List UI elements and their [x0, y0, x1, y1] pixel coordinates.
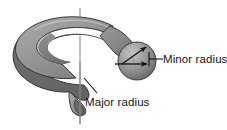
minor-radius-sphere	[118, 42, 156, 80]
minor-radius-label: Minor radius	[163, 53, 227, 65]
torus-diagram-figure: Minor radius Major radius	[0, 0, 227, 130]
major-radius-label: Major radius	[85, 96, 150, 108]
torus-diagram-canvas: Minor radius Major radius	[0, 0, 227, 130]
